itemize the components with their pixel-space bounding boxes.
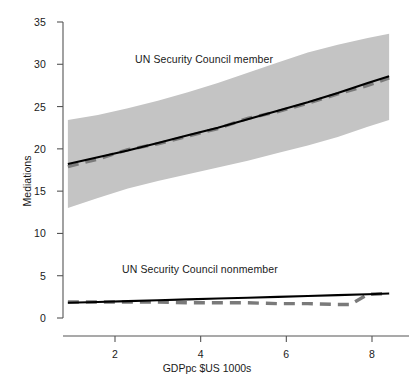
- y-axis-tick-label: 5: [14, 270, 46, 282]
- mediations-gdppc-chart: 05101520253035 2468 Mediations GDPpc $US…: [0, 0, 414, 387]
- y-axis-ticks: [57, 22, 63, 318]
- x-axis-title: GDPpc $US 1000s: [0, 362, 414, 374]
- y-axis-tick-label: 0: [14, 312, 46, 324]
- y-axis-tick-label: 30: [14, 58, 46, 70]
- x-axis-ticks: [115, 336, 372, 342]
- series-annotation-nonmember: UN Security Council nonmember: [122, 263, 278, 275]
- x-axis-tick-label: 6: [283, 348, 289, 360]
- y-axis-tick-label: 10: [14, 227, 46, 239]
- y-axis-tick-label: 25: [14, 101, 46, 113]
- series-annotation-member: UN Security Council member: [135, 53, 273, 65]
- y-axis-title: Mediations: [21, 136, 33, 226]
- x-axis-tick-label: 4: [198, 348, 204, 360]
- x-axis-tick-label: 2: [112, 348, 118, 360]
- y-axis-tick-label: 35: [14, 16, 46, 28]
- x-axis-tick-label: 8: [369, 348, 375, 360]
- fit-line-nonmember: [68, 293, 389, 302]
